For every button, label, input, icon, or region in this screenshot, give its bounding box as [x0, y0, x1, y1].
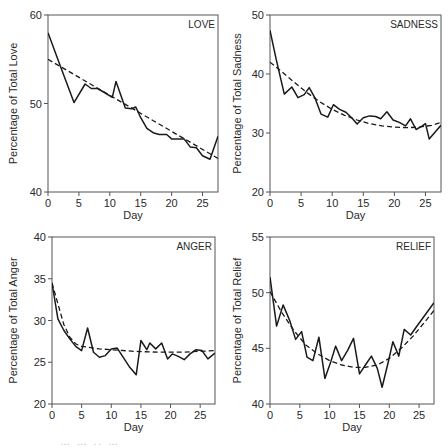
observed-data-line: [48, 33, 218, 160]
fitted-trend-line: [52, 283, 215, 352]
chart-panel-love: 4050600510152025DayPercentage of Total L…: [0, 0, 224, 222]
chart-svg: 4050600510152025DayPercentage of Total L…: [0, 0, 224, 222]
observed-data-line: [270, 277, 434, 387]
panel-label: RELIEF: [396, 241, 431, 252]
panel-label: SADNESS: [390, 19, 438, 30]
observed-data-line: [52, 283, 215, 375]
x-tick-label: 5: [297, 409, 303, 421]
chart-panel-relief: 404550550510152025DayPercentage of Total…: [224, 222, 448, 444]
y-tick-label: 30: [34, 315, 46, 327]
x-axis-label: Day: [346, 209, 366, 221]
panel-label: ANGER: [176, 241, 212, 252]
y-tick-label: 40: [30, 186, 42, 198]
x-axis-label: Day: [124, 421, 144, 433]
y-tick-label: 55: [252, 231, 264, 243]
chart-panel-anger: 20253035400510152025DayPercentage of Tot…: [0, 222, 224, 444]
x-tick-label: 20: [383, 409, 395, 421]
caption-fragment: … … .. …: [60, 436, 120, 447]
x-tick-label: 10: [324, 409, 336, 421]
y-axis-label: Percentage of Total Anger: [7, 257, 19, 384]
x-tick-label: 5: [79, 409, 85, 421]
x-tick-label: 25: [413, 409, 425, 421]
y-tick-label: 50: [252, 9, 264, 21]
y-tick-label: 40: [34, 231, 46, 243]
x-tick-label: 5: [76, 197, 82, 209]
x-tick-label: 0: [45, 197, 51, 209]
x-axis-label: Day: [342, 421, 362, 433]
x-tick-label: 20: [164, 409, 176, 421]
x-tick-label: 10: [104, 197, 116, 209]
panel-label: LOVE: [188, 19, 215, 30]
x-tick-label: 10: [326, 197, 338, 209]
y-tick-label: 60: [30, 9, 42, 21]
x-tick-label: 15: [357, 197, 369, 209]
fitted-trend-line: [48, 59, 218, 158]
y-tick-label: 50: [252, 287, 264, 299]
y-axis-label: Percentage of Total Relief: [231, 257, 243, 384]
plot-frame: [270, 15, 441, 192]
y-tick-label: 25: [34, 356, 46, 368]
x-tick-label: 25: [419, 197, 431, 209]
x-tick-label: 10: [105, 409, 117, 421]
y-tick-label: 20: [34, 398, 46, 410]
x-tick-label: 0: [267, 197, 273, 209]
x-tick-label: 0: [267, 409, 273, 421]
y-tick-label: 50: [30, 98, 42, 110]
y-tick-label: 45: [252, 342, 264, 354]
chart-svg: 404550550510152025DayPercentage of Total…: [224, 222, 448, 444]
plot-frame: [270, 237, 434, 404]
x-tick-label: 25: [194, 409, 206, 421]
y-tick-label: 35: [34, 273, 46, 285]
x-tick-label: 15: [135, 197, 147, 209]
y-tick-label: 20: [252, 186, 264, 198]
y-tick-label: 40: [252, 398, 264, 410]
x-tick-label: 0: [49, 409, 55, 421]
observed-data-line: [270, 30, 441, 139]
x-tick-label: 20: [388, 197, 400, 209]
x-tick-label: 15: [353, 409, 365, 421]
y-axis-label: Percentage of Total Sadness: [231, 33, 243, 174]
chart-svg: 203040500510152025DayPercentage of Total…: [224, 0, 448, 222]
x-tick-label: 15: [135, 409, 147, 421]
x-axis-label: Day: [123, 209, 143, 221]
y-axis-label: Percentage of Total Love: [7, 43, 19, 165]
fitted-trend-line: [270, 292, 434, 368]
y-tick-label: 40: [252, 68, 264, 80]
plot-frame: [52, 237, 215, 404]
chart-svg: 20253035400510152025DayPercentage of Tot…: [0, 222, 224, 444]
chart-panel-sadness: 203040500510152025DayPercentage of Total…: [224, 0, 448, 222]
x-tick-label: 5: [298, 197, 304, 209]
x-tick-label: 25: [196, 197, 208, 209]
x-tick-label: 20: [166, 197, 178, 209]
plot-frame: [48, 15, 218, 192]
y-tick-label: 30: [252, 127, 264, 139]
